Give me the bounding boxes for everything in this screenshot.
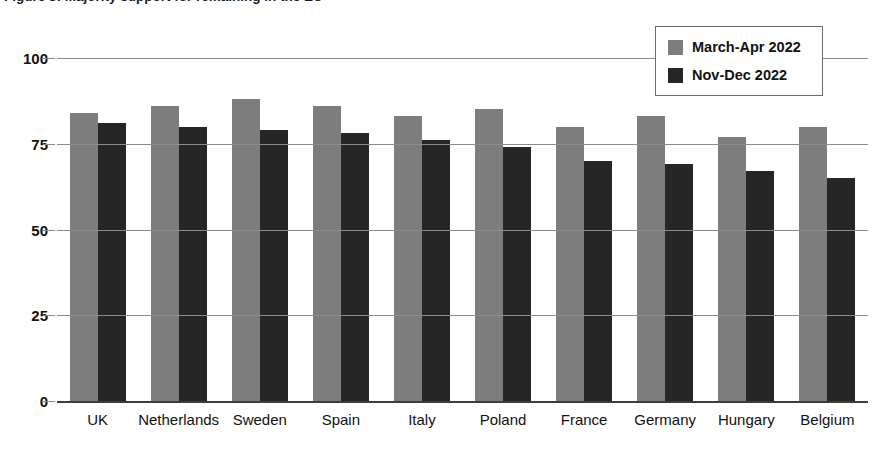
bar-poland-series-1[interactable] (475, 109, 503, 401)
y-tick-label-0: 0 (4, 394, 48, 409)
x-tick-label-netherlands: Netherlands (138, 406, 219, 436)
bar-netherlands-series-2[interactable] (179, 127, 207, 401)
legend-item-2[interactable]: Nov-Dec 2022 (668, 64, 812, 86)
legend-label-2: Nov-Dec 2022 (692, 67, 787, 83)
bar-italy-series-2[interactable] (422, 140, 450, 401)
gridline-50 (57, 230, 868, 231)
x-tick-label-spain: Spain (300, 406, 381, 436)
x-tick-label-germany: Germany (625, 406, 706, 436)
x-axis: UKNetherlandsSwedenSpainItalyPolandFranc… (57, 406, 868, 436)
bar-germany-series-2[interactable] (665, 164, 693, 401)
legend-item-1[interactable]: March-Apr 2022 (668, 36, 812, 58)
y-tick-label-25: 25 (4, 308, 48, 323)
bar-belgium-series-2[interactable] (827, 178, 855, 401)
y-tick-label-100: 100 (4, 51, 48, 66)
x-tick-label-sweden: Sweden (219, 406, 300, 436)
bar-italy-series-1[interactable] (394, 116, 422, 401)
bar-spain-series-2[interactable] (341, 133, 369, 401)
bar-belgium-series-1[interactable] (799, 127, 827, 401)
y-tick-mark-75 (43, 144, 55, 145)
figure-caption-text: Figure 3: Majority support for remaining… (0, 0, 877, 5)
bar-poland-series-2[interactable] (503, 147, 531, 401)
bar-germany-series-1[interactable] (637, 116, 665, 401)
legend-swatch-icon-1 (668, 40, 683, 55)
y-tick-mark-25 (43, 315, 55, 316)
gridline-75 (57, 144, 868, 145)
bar-spain-series-1[interactable] (313, 106, 341, 401)
x-tick-label-poland: Poland (462, 406, 543, 436)
y-tick-label-75: 75 (4, 136, 48, 151)
x-tick-label-hungary: Hungary (706, 406, 787, 436)
legend-swatch-icon-2 (668, 68, 683, 83)
bar-france-series-2[interactable] (584, 161, 612, 401)
bar-chart: Figure 3: Majority support for remaining… (0, 0, 877, 452)
bar-uk-series-1[interactable] (70, 113, 98, 401)
gridline-0 (57, 401, 868, 403)
y-tick-mark-0 (43, 401, 55, 402)
bar-hungary-series-1[interactable] (718, 137, 746, 401)
plot-area (57, 58, 868, 401)
x-tick-label-uk: UK (57, 406, 138, 436)
y-axis: 0255075100 (0, 58, 48, 401)
bar-hungary-series-2[interactable] (746, 171, 774, 401)
y-tick-mark-100 (43, 58, 55, 59)
gridline-25 (57, 315, 868, 316)
x-tick-label-france: France (544, 406, 625, 436)
bar-sweden-series-2[interactable] (260, 130, 288, 401)
bar-netherlands-series-1[interactable] (151, 106, 179, 401)
chart-legend: March-Apr 2022Nov-Dec 2022 (655, 26, 823, 96)
x-tick-label-italy: Italy (381, 406, 462, 436)
y-tick-label-50: 50 (4, 222, 48, 237)
legend-label-1: March-Apr 2022 (692, 39, 801, 55)
figure-caption: Figure 3: Majority support for remaining… (0, 0, 877, 5)
bar-uk-series-2[interactable] (98, 123, 126, 401)
x-tick-label-belgium: Belgium (787, 406, 868, 436)
bar-france-series-1[interactable] (556, 127, 584, 401)
y-tick-mark-50 (43, 230, 55, 231)
